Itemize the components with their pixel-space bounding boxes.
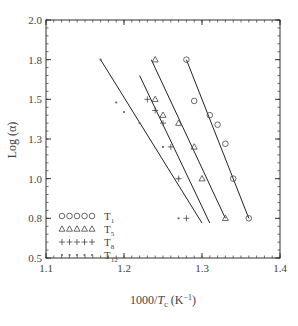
- plus-marker-icon: [183, 215, 189, 221]
- fit-line-t8: [140, 76, 210, 224]
- circle-marker-icon: [67, 213, 73, 219]
- circle-marker-icon: [215, 122, 221, 128]
- triangle-marker-icon: [67, 226, 73, 231]
- plus-marker-icon: [67, 239, 73, 245]
- y-tick-label: 1.5: [28, 93, 42, 105]
- plot-frame: [46, 20, 280, 258]
- log-alpha-chart: 1.11.21.31.40.50.81.01.31.51.82.0 T1T5T8…: [0, 0, 298, 326]
- y-tick-label: 1.0: [28, 173, 42, 185]
- asterisk-marker-icon: [139, 122, 141, 124]
- asterisk-marker-icon: [162, 146, 164, 148]
- asterisk-marker-icon: [68, 254, 70, 256]
- y-tick-label: 2.0: [28, 14, 42, 26]
- triangle-marker-icon: [82, 226, 88, 231]
- asterisk-marker-icon: [178, 178, 180, 180]
- triangle-marker-icon: [59, 226, 65, 231]
- asterisk-marker-icon: [83, 254, 85, 256]
- asterisk-marker-icon: [123, 111, 125, 113]
- triangle-marker-icon: [89, 226, 95, 231]
- circle-marker-icon: [74, 213, 80, 219]
- asterisk-marker-icon: [91, 254, 93, 256]
- circle-marker-icon: [59, 213, 65, 219]
- legend: T1T5T8T12: [59, 210, 118, 264]
- plus-marker-icon: [89, 239, 95, 245]
- y-axis-label: Log (α): [5, 122, 19, 159]
- fit-line-t12: [101, 60, 202, 223]
- circle-marker-icon: [191, 98, 197, 104]
- plus-marker-icon: [59, 239, 65, 245]
- asterisk-marker-icon: [115, 101, 117, 103]
- triangle-marker-icon: [152, 96, 158, 101]
- circle-marker-icon: [82, 213, 88, 219]
- data-points: [100, 56, 252, 221]
- plus-marker-icon: [82, 239, 88, 245]
- triangle-marker-icon: [74, 226, 80, 231]
- y-tick-label: 0.5: [28, 252, 42, 264]
- plus-marker-icon: [74, 239, 80, 245]
- asterisk-marker-icon: [178, 217, 180, 219]
- triangle-marker-icon: [152, 56, 158, 61]
- y-tick-label: 1.3: [28, 133, 42, 145]
- triangle-marker-icon: [160, 112, 166, 117]
- x-tick-label: 1.4: [273, 262, 287, 274]
- y-tick-label: 1.8: [28, 54, 42, 66]
- legend-label-t12: T12: [104, 249, 118, 264]
- fit-line-t5: [151, 60, 225, 219]
- asterisk-marker-icon: [61, 254, 63, 256]
- circle-marker-icon: [223, 141, 229, 147]
- y-tick-label: 0.8: [28, 212, 42, 224]
- x-axis-label: 1000/Tc (K−1): [130, 293, 196, 309]
- x-tick-label: 1.2: [117, 262, 131, 274]
- triangle-marker-icon: [199, 175, 205, 180]
- asterisk-marker-icon: [76, 254, 78, 256]
- circle-marker-icon: [89, 213, 95, 219]
- plot-axes: 1.11.21.31.40.50.81.01.31.51.82.0: [28, 14, 287, 274]
- x-tick-label: 1.3: [195, 262, 209, 274]
- asterisk-marker-icon: [100, 59, 102, 61]
